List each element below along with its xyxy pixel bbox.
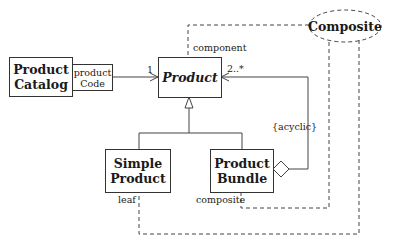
class-product-bundle[interactable]: Product Bundle	[210, 149, 274, 193]
class-name-line: Product	[13, 62, 69, 77]
generalization-branches	[139, 133, 242, 149]
generalization-triangle-icon	[185, 97, 193, 108]
class-name-line: Product	[214, 156, 270, 171]
role-component-label: component	[193, 42, 247, 53]
qualifier-line: Code	[80, 78, 105, 89]
class-name-line: Bundle	[217, 171, 267, 186]
qualifier-line: product	[74, 67, 112, 78]
class-name-line: Simple	[114, 156, 162, 171]
role-composite-label: composite	[196, 194, 245, 205]
multiplicity-many-label: 2..*	[227, 63, 244, 74]
composite-collaboration: Composite	[309, 11, 381, 41]
class-name-line: Product	[110, 171, 166, 186]
collaboration-name: Composite	[308, 19, 382, 34]
multiplicity-one-label: 1	[147, 64, 153, 75]
aggregation-diamond-icon	[273, 161, 289, 177]
class-name: Product	[162, 70, 218, 85]
class-product[interactable]: Product	[158, 57, 222, 98]
class-simple-product[interactable]: Simple Product	[105, 149, 171, 193]
class-product-catalog[interactable]: Product Catalog	[9, 57, 73, 97]
qualifier-product-code[interactable]: product Code	[72, 64, 113, 91]
class-name-line: Catalog	[14, 77, 68, 92]
constraint-acyclic-label: {acyclic}	[272, 121, 317, 132]
role-leaf-label: leaf	[118, 194, 136, 205]
